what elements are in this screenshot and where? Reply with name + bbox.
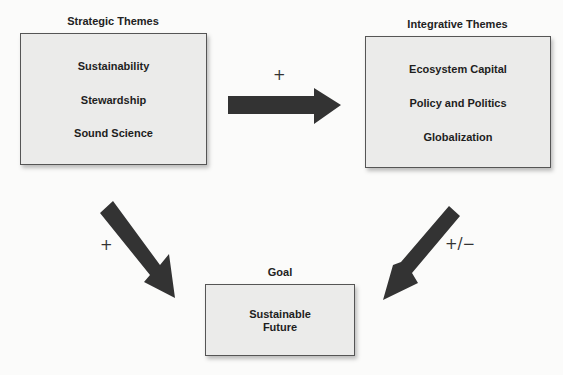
- strategic-themes-title: Strategic Themes: [20, 15, 206, 27]
- sign-strategic-to-integrative: +: [273, 66, 286, 84]
- goal-title: Goal: [205, 266, 355, 278]
- strategic-item: Sustainability: [21, 60, 206, 72]
- sign-strategic-to-goal: +: [100, 236, 113, 254]
- integrative-item: Globalization: [366, 131, 550, 143]
- sign-integrative-to-goal: +/−: [445, 235, 475, 253]
- integrative-themes-title: Integrative Themes: [365, 18, 550, 30]
- goal-line-2: Future: [206, 321, 354, 333]
- goal-box: Sustainable Future: [205, 284, 355, 356]
- strategic-item: Stewardship: [21, 94, 206, 106]
- integrative-item: Ecosystem Capital: [366, 63, 550, 75]
- integrative-themes-box: Ecosystem Capital Policy and Politics Gl…: [365, 36, 551, 168]
- arrow-strategic-to-integrative: [228, 88, 341, 124]
- strategic-themes-box: Sustainability Stewardship Sound Science: [20, 33, 207, 165]
- arrow-integrative-to-goal: [383, 206, 460, 300]
- goal-line-1: Sustainable: [206, 308, 354, 320]
- strategic-item: Sound Science: [21, 127, 206, 139]
- integrative-item: Policy and Politics: [366, 97, 550, 109]
